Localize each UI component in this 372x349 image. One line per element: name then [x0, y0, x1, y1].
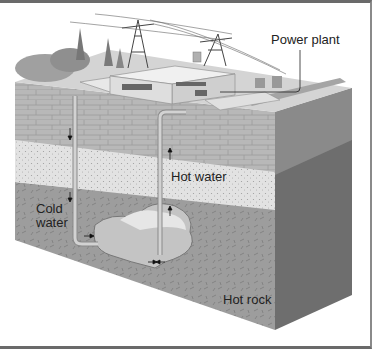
power-plant-label: Power plant	[271, 33, 340, 47]
hot-rock-label: Hot rock	[223, 293, 271, 307]
cold-water-label-line2: water	[36, 216, 68, 230]
cold-water-label-line1: Cold	[36, 202, 68, 216]
hot-water-label: Hot water	[171, 170, 227, 184]
cold-water-label: Cold water	[36, 202, 68, 230]
